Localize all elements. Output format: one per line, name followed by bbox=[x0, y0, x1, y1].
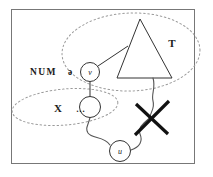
node-v: v bbox=[81, 63, 100, 82]
ellipsis-label: … bbox=[76, 104, 86, 114]
set-label-x: X bbox=[54, 102, 62, 114]
node-u: u bbox=[110, 141, 131, 162]
node-u-label: u bbox=[118, 147, 122, 156]
feature-label-num: NUM bbox=[30, 67, 57, 77]
schwa-label: ə bbox=[68, 67, 74, 77]
node-v-label: v bbox=[88, 68, 92, 77]
set-label-t: T bbox=[168, 37, 176, 49]
figure-frame bbox=[12, 10, 195, 164]
figure-root: v u NUM ə T X … bbox=[0, 0, 213, 177]
diagram-canvas: v u NUM ə T X … bbox=[0, 0, 213, 177]
